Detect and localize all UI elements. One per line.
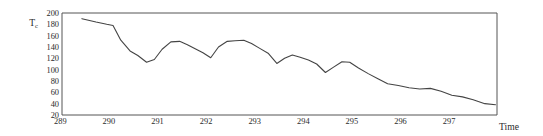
y-tick-label: 80	[51, 77, 59, 86]
x-tick-label: 291	[151, 117, 164, 126]
x-axis-title: Time	[499, 121, 519, 132]
x-tick-label: 289	[54, 117, 67, 126]
y-tick-label: 140	[46, 43, 59, 52]
x-tick-label: 295	[346, 117, 359, 126]
y-tick-label: 100	[46, 66, 59, 75]
x-tick-label: 297	[443, 117, 456, 126]
x-axis-tick-labels: 289290291292293294295296297	[54, 117, 455, 126]
x-tick-label: 294	[297, 117, 310, 126]
x-tick-label: 290	[103, 117, 116, 126]
y-tick-label: 40	[51, 100, 59, 109]
y-tick-label: 200	[46, 9, 59, 18]
chart-figure: 20018016014012010080604020 2892902912922…	[0, 0, 543, 136]
x-tick-label: 296	[394, 117, 407, 126]
y-axis-title-subscript: c	[35, 22, 38, 29]
y-tick-label: 120	[46, 54, 59, 63]
y-tick-label: 160	[46, 32, 59, 41]
y-tick-label: 180	[46, 20, 59, 29]
x-tick-label: 293	[248, 117, 261, 126]
x-tick-label: 292	[200, 117, 213, 126]
y-tick-label: 60	[51, 88, 59, 97]
chart-background	[0, 0, 543, 136]
